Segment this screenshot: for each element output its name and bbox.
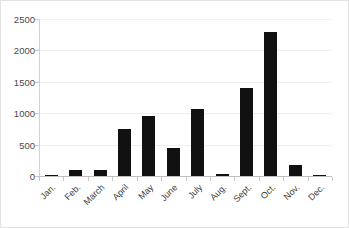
bar-chart: 05001000150020002500 Jan.Feb.MarchAprilM…: [0, 0, 349, 228]
x-axis-tick: [88, 177, 89, 181]
gridline: [39, 82, 332, 83]
bar-july: [191, 109, 204, 176]
gridline: [39, 145, 332, 146]
gridline: [39, 50, 332, 51]
y-axis-tick-label: 1000: [1, 109, 35, 119]
y-axis-tick-label: 2500: [1, 15, 35, 25]
y-axis-tick: [35, 113, 39, 114]
x-axis-tick: [186, 177, 187, 181]
x-axis-tick: [332, 177, 333, 181]
bar-oct: [264, 32, 277, 176]
x-axis-tick: [210, 177, 211, 181]
y-axis-labels: 05001000150020002500: [1, 1, 35, 228]
bar-sept: [240, 88, 253, 176]
gridline: [39, 19, 332, 20]
x-axis-tick: [259, 177, 260, 181]
plot-area: [39, 19, 332, 176]
bar-may: [142, 116, 155, 176]
y-axis-tick: [35, 145, 39, 146]
x-axis-tick: [283, 177, 284, 181]
y-axis-tick: [35, 50, 39, 51]
x-axis-tick: [234, 177, 235, 181]
y-axis-tick-label: 500: [1, 141, 35, 151]
y-axis-tick-label: 2000: [1, 46, 35, 56]
x-axis-tick: [308, 177, 309, 181]
y-axis-tick: [35, 19, 39, 20]
y-axis-tick: [35, 82, 39, 83]
x-axis-tick: [63, 177, 64, 181]
y-axis-line: [39, 19, 40, 177]
x-axis-tick: [112, 177, 113, 181]
y-axis-tick-label: 1500: [1, 78, 35, 88]
x-axis-tick: [137, 177, 138, 181]
bar-nov: [289, 165, 302, 176]
x-axis-tick: [39, 177, 40, 181]
bar-june: [167, 148, 180, 176]
bar-april: [118, 129, 131, 176]
gridline: [39, 113, 332, 114]
x-axis-tick: [161, 177, 162, 181]
y-axis-tick-label: 0: [1, 172, 35, 182]
